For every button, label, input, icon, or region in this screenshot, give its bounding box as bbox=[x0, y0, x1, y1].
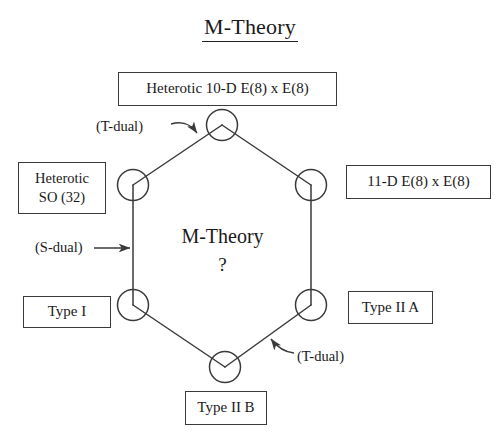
vertex-circle-lower-right bbox=[296, 290, 327, 321]
node-type-ii-b: Type II B bbox=[185, 391, 267, 425]
label-t-dual-top: (T-dual) bbox=[96, 118, 143, 135]
label-t-dual-bottom: (T-dual) bbox=[297, 348, 344, 365]
center-label-question: ? bbox=[150, 251, 295, 279]
vertex-circle-lower-left bbox=[118, 290, 149, 321]
node-heterotic-10d-e8xe8: Heterotic 10-D E(8) x E(8) bbox=[118, 72, 337, 106]
vertex-circle-bottom bbox=[210, 352, 241, 383]
t-dual-bottom-arrow bbox=[271, 339, 294, 353]
hexagon-diagram bbox=[0, 0, 500, 442]
t-dual-top-arrow bbox=[171, 123, 197, 133]
center-label-name: M-Theory bbox=[181, 225, 263, 247]
vertex-circle-upper-right bbox=[296, 170, 327, 201]
vertex-circle-top bbox=[207, 110, 238, 141]
node-type-ii-a: Type II A bbox=[348, 291, 433, 324]
node-heterotic-so32: Heterotic SO (32) bbox=[18, 162, 106, 214]
vertex-circle-upper-left bbox=[118, 170, 149, 201]
edge-lower-left-to-bottom bbox=[133, 305, 225, 367]
diagram-canvas: M-Theory bbox=[0, 0, 500, 442]
node-11d-e8xe8: 11-D E(8) x E(8) bbox=[346, 165, 491, 199]
node-type-i: Type I bbox=[23, 296, 111, 328]
label-s-dual: (S-dual) bbox=[35, 239, 83, 256]
center-label: M-Theory ? bbox=[150, 222, 295, 279]
